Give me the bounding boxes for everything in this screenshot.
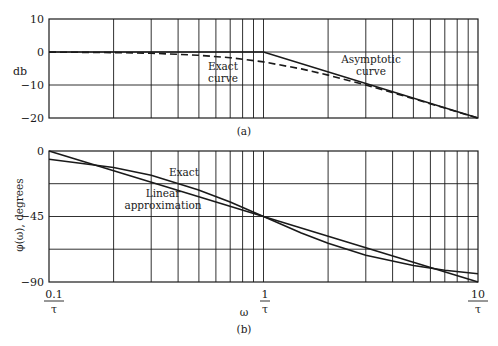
svg-text:1: 1 <box>262 288 269 301</box>
ytick-10: 10 <box>30 13 44 26</box>
asymptotic-curve-label-line1: Asymptotic <box>340 53 401 65</box>
x-axis-label-omega: ω <box>240 306 249 318</box>
asymptotic-curve-label-line2: curve <box>356 65 386 77</box>
caption-a: (a) <box>237 125 251 137</box>
svg-text:τ: τ <box>262 303 268 316</box>
ytick-minus10: −10 <box>21 79 44 92</box>
xtick-1-over-tau: 1 τ <box>260 288 270 316</box>
linear-approx-label-line1: Linear <box>146 187 182 199</box>
xtick-10-over-tau: 10 τ <box>468 288 488 316</box>
y-axis-label-db: db <box>13 65 27 78</box>
svg-text:0.1: 0.1 <box>45 288 63 301</box>
phase-panel: 0 −45 −90 φ(ω), degrees Exact Linear app… <box>13 145 488 335</box>
caption-b: (b) <box>237 323 252 335</box>
ytick-0: 0 <box>37 46 44 59</box>
magnitude-panel: 10 0 −10 −20 db Exact curve Asymptotic c… <box>13 13 478 137</box>
magnitude-grid <box>49 19 478 118</box>
bode-plot-figure: 10 0 −10 −20 db Exact curve Asymptotic c… <box>0 0 498 346</box>
exact-curve-label-line1: Exact <box>208 60 239 72</box>
xtick-0.1-over-tau: 0.1 τ <box>44 288 64 316</box>
exact-phase-label: Exact <box>169 166 200 178</box>
svg-text:τ: τ <box>51 303 57 316</box>
exact-curve-label-line2: curve <box>208 72 238 84</box>
y-axis-label-phase: φ(ω), degrees <box>13 178 25 251</box>
ytick-0-deg: 0 <box>37 145 44 158</box>
ytick-minus90-deg: −90 <box>21 276 44 289</box>
svg-text:τ: τ <box>475 303 481 316</box>
ytick-minus20: −20 <box>21 112 44 125</box>
svg-text:10: 10 <box>471 288 485 301</box>
linear-approx-label-line2: approximation <box>124 199 201 211</box>
